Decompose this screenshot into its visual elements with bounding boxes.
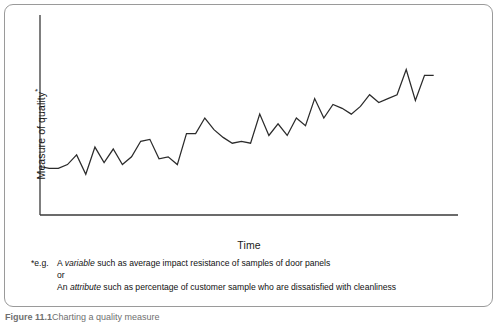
footnote-line-2: or xyxy=(31,269,481,281)
footnote-line-3-post: such as percentage of customer sample wh… xyxy=(101,282,396,292)
figure-caption: Figure 11.1Charting a quality measure xyxy=(5,312,160,322)
footnote-line-1-pre: A xyxy=(57,258,65,268)
data-series-line xyxy=(40,70,434,175)
footnote-line-2-text: or xyxy=(57,269,481,281)
footnote-line-1-emphasis: variable xyxy=(65,258,95,268)
figure-frame: Measure of quality* Time *e.g. A variabl… xyxy=(4,4,493,307)
figure-caption-title: Charting a quality measure xyxy=(52,312,160,322)
footnote-line-1: *e.g. A variable such as average impact … xyxy=(31,257,481,269)
y-axis-title-superscript: * xyxy=(33,89,42,92)
y-axis-title-text: Measure of quality xyxy=(35,92,47,180)
x-axis-title: Time xyxy=(39,239,459,251)
quality-line-chart xyxy=(39,15,459,227)
figure-caption-number: Figure 11.1 xyxy=(5,312,52,322)
footnote-line-3-text: An attribute such as percentage of custo… xyxy=(57,281,481,293)
footnote-line-3: An attribute such as percentage of custo… xyxy=(31,281,481,293)
footnote-marker: *e.g. xyxy=(31,257,57,269)
footnote-line-1-text: A variable such as average impact resist… xyxy=(57,257,481,269)
footnote-block: *e.g. A variable such as average impact … xyxy=(31,257,481,294)
footnote-line-3-pre: An xyxy=(57,282,70,292)
chart-plot-area: Measure of quality* Time xyxy=(39,15,459,227)
y-axis-title: Measure of quality* xyxy=(33,69,49,199)
footnote-line-3-emphasis: attribute xyxy=(70,282,101,292)
footnote-line-1-post: such as average impact resistance of sam… xyxy=(95,258,331,268)
